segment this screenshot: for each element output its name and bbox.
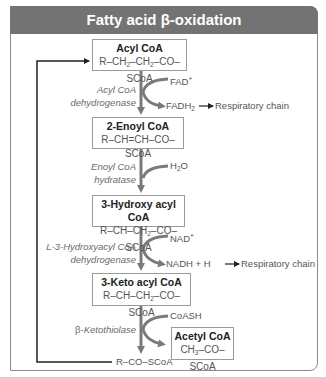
acetyl-coa-name: Acetyl CoA [172,330,233,343]
respiratory-arrows [199,106,239,264]
enoyl-coa-box: 2-Enoyl CoA R–CH=CH–CO–SCoA [92,117,184,149]
ketoacyl-coa-box: 3-Keto acyl CoA R–CH–CH2–CO–SCoA [92,273,191,306]
coash-input: CoASH [170,310,202,322]
enzyme-hydroxyacyl-coa-dehydrogenase: L-3-Hydroxyacyl CoAdehydrogenase [40,240,136,266]
enoyl-coa-formula: R–CH=CH–CO–SCoA [93,133,183,161]
nadh-output: NADH + H [166,258,211,270]
recycled-acyl-coa: R–CO–SCoA [116,356,173,368]
nad-input: NAD+ [170,230,194,245]
respiratory-chain-2: Respiratory chain [241,258,315,270]
acetyl-coa-formula: CH3–CO–SCoA [172,343,233,374]
enzyme-enoyl-coa-hydratase: Enoyl CoAhydratase [60,160,136,186]
enzyme-acyl-coa-dehydrogenase: Acyl CoAdehydrogenase [60,83,136,109]
ketoacyl-coa-name: 3-Keto acyl CoA [93,276,190,289]
fad-input: FAD+ [170,73,192,88]
acetyl-coa-box: Acetyl CoA CH3–CO–SCoA [171,327,234,360]
fadh2-output: FADH2 [166,100,195,115]
hydroxyacyl-coa-name: 3-Hydroxy acyl CoA [93,198,184,224]
acyl-coa-box: Acyl CoA R–CH2–CH2–CO–SCoA [92,39,187,71]
enoyl-coa-name: 2-Enoyl CoA [93,120,183,133]
acyl-coa-name: Acyl CoA [93,42,186,55]
respiratory-chain-1: Respiratory chain [215,100,289,112]
hydroxyacyl-coa-box: 3-Hydroxy acyl CoA R–CH–CH2–CO–SCoA [92,195,185,227]
enzyme-ketothiolase: β-Ketothiolase [60,323,136,336]
water-input: H2O [170,160,188,175]
